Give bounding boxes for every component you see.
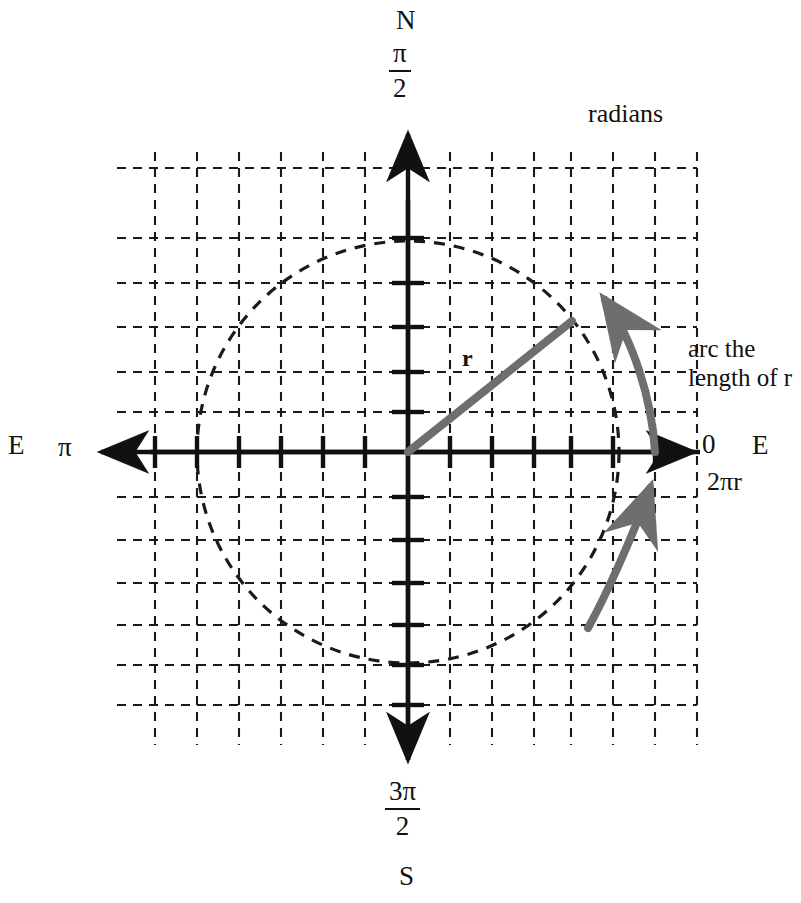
compass-label-south: S bbox=[399, 862, 414, 890]
fraction-denominator: 2 bbox=[389, 74, 411, 103]
fraction-bar bbox=[385, 808, 420, 810]
arc-length-annotation-line1: arc the bbox=[688, 334, 792, 363]
radian-circle-diagram: N π 2 radians arc the length of r E π 0 … bbox=[0, 0, 801, 903]
axis-label-three-pi-over-2: 3π 2 bbox=[385, 778, 420, 840]
fraction-bar bbox=[389, 70, 411, 72]
axis-label-pi: π bbox=[58, 433, 72, 461]
axis-label-pi-over-2: π 2 bbox=[389, 40, 411, 102]
fraction-numerator: 3π bbox=[385, 778, 420, 807]
arc-length-annotation-line2: length of r bbox=[688, 363, 792, 392]
axis-label-zero: 0 bbox=[702, 430, 716, 458]
diagram-canvas bbox=[0, 0, 801, 903]
arc-length-annotation: arc the length of r bbox=[688, 334, 792, 392]
radius-vector bbox=[408, 321, 572, 452]
lower-arc-arrow bbox=[588, 488, 650, 628]
axis-label-two-pi-r: 2πr bbox=[707, 468, 742, 495]
fraction-denominator: 2 bbox=[385, 812, 420, 841]
compass-label-north: N bbox=[396, 6, 416, 34]
compass-label-east-left: E bbox=[8, 431, 25, 459]
radius-label: r bbox=[462, 346, 473, 371]
fraction-numerator: π bbox=[389, 40, 411, 69]
compass-label-east-right: E bbox=[752, 431, 769, 459]
radians-caption: radians bbox=[588, 100, 663, 127]
